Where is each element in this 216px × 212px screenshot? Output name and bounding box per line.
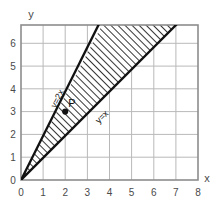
x-tick-7: 7 [173, 187, 179, 198]
y-tick-4: 4 [10, 84, 16, 95]
chart-figure: 0 1 2 3 4 5 6 7 8 0 1 2 3 4 5 6 x y y=2x… [0, 0, 216, 212]
y-tick-5: 5 [10, 61, 16, 72]
x-tick-6: 6 [151, 187, 157, 198]
y-tick-2: 2 [10, 129, 16, 140]
x-axis-tick-labels: 0 1 2 3 4 5 6 7 8 [18, 187, 201, 198]
y-tick-0: 0 [10, 175, 16, 186]
x-tick-3: 3 [85, 187, 91, 198]
x-axis-label: x [204, 172, 210, 184]
x-tick-1: 1 [40, 187, 46, 198]
x-tick-5: 5 [129, 187, 135, 198]
point-marker-P [62, 109, 68, 115]
x-tick-0: 0 [18, 187, 24, 198]
x-tick-8: 8 [195, 187, 201, 198]
y-tick-6: 6 [10, 38, 16, 49]
x-tick-4: 4 [107, 187, 113, 198]
y-tick-1: 1 [10, 152, 16, 163]
y-axis-label: y [28, 8, 34, 20]
coordinate-plot: 0 1 2 3 4 5 6 7 8 0 1 2 3 4 5 6 x y y=2x… [0, 0, 216, 212]
x-tick-2: 2 [62, 187, 68, 198]
point-label-P: P [68, 97, 75, 109]
y-tick-3: 3 [10, 106, 16, 117]
